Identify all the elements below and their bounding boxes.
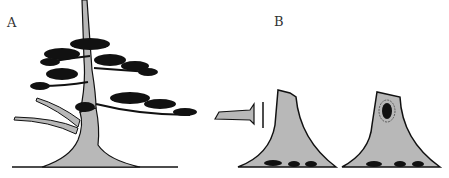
stump-fresh-cut [238,90,336,167]
foliage [30,38,197,116]
stump-healed [342,92,440,167]
cut-branch [215,104,254,124]
healed-wound [382,103,392,119]
trunk-base [42,108,140,167]
panel-b-stumps [215,90,440,167]
panel-a-tree [12,0,197,167]
illustration [0,0,449,178]
